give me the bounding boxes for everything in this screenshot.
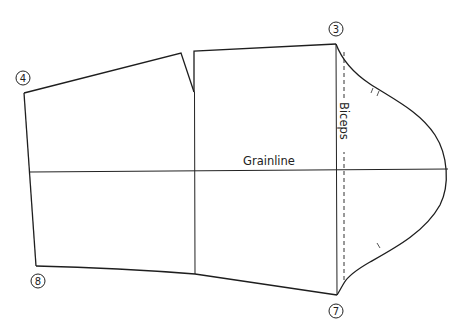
- biceps-label-text: Biceps: [337, 102, 351, 140]
- bottom-edge: [36, 266, 337, 295]
- sleeve-pattern-diagram: Grainline Biceps 3 4 7 8: [0, 0, 471, 336]
- grainline: [30, 169, 448, 172]
- point-3-marker: 3: [329, 22, 343, 36]
- point-3-label: 3: [333, 24, 339, 35]
- right-panel-top-edge: [194, 44, 336, 92]
- point-7-label: 7: [333, 306, 339, 317]
- single-notch-icon: [377, 243, 380, 248]
- grainline-label: Grainline: [243, 154, 295, 168]
- point-7-marker: 7: [329, 304, 343, 318]
- point-4-marker: 4: [16, 71, 30, 85]
- left-panel-top-edge: [24, 53, 194, 93]
- point-4-label: 4: [20, 73, 26, 84]
- middle-vertical-line: [195, 92, 196, 274]
- left-edge: [24, 93, 36, 266]
- point-8-label: 8: [35, 276, 41, 287]
- point-8-marker: 8: [31, 274, 45, 288]
